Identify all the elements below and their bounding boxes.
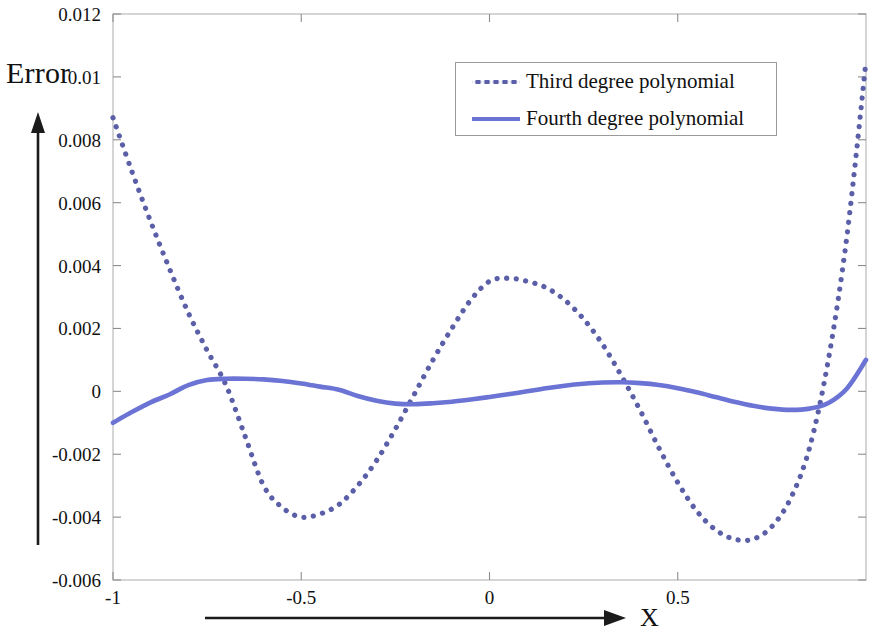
- x-tick-label: -1: [105, 588, 121, 607]
- y-tick-label: -0.004: [0, 508, 101, 527]
- x-axis-arrow: [205, 610, 626, 626]
- legend-entry-fourth-degree[interactable]: Fourth degree polynomial: [456, 100, 776, 137]
- y-tick-label: -0.002: [0, 445, 101, 464]
- x-tick-label: 0.5: [666, 588, 690, 607]
- legend-swatch-solid-icon: [468, 109, 522, 129]
- legend-label-third-degree: Third degree polynomial: [526, 71, 735, 92]
- y-tick-label: 0.006: [0, 193, 101, 212]
- x-axis-title: X: [640, 605, 659, 631]
- x-tick-label: -0.5: [286, 588, 316, 607]
- chart-figure: Error X 0.0120.010.0080.0060.0040.0020-0…: [0, 0, 872, 636]
- legend-entry-third-degree[interactable]: Third degree polynomial: [456, 63, 776, 100]
- x-tick-label: 0: [485, 588, 495, 607]
- y-tick-label: 0.01: [0, 67, 101, 86]
- y-tick-label: 0.008: [0, 130, 101, 149]
- y-tick-label: -0.006: [0, 571, 101, 590]
- legend[interactable]: Third degree polynomial Fourth degree po…: [455, 62, 777, 136]
- legend-label-fourth-degree: Fourth degree polynomial: [526, 108, 744, 129]
- y-tick-label: 0.004: [0, 256, 101, 275]
- y-tick-label: 0.012: [0, 5, 101, 24]
- legend-swatch-dotted-icon: [468, 72, 522, 92]
- y-tick-label: 0: [0, 382, 101, 401]
- y-tick-label: 0.002: [0, 319, 101, 338]
